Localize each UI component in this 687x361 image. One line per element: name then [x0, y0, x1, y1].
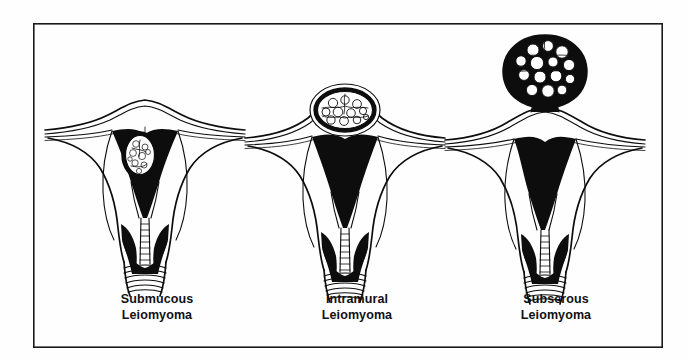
fibroid-intramural — [310, 84, 380, 136]
fibroid-subserous — [503, 35, 587, 108]
leiomyoma-illustration: Submucous Leiomyoma Intramural Leiomyoma… — [0, 0, 687, 361]
caption-subserous-line2: Leiomyoma — [521, 308, 592, 322]
caption-submucous-line1: Submucous — [121, 292, 193, 306]
caption-submucous-line2: Leiomyoma — [122, 308, 193, 322]
figure-root: Submucous Leiomyoma Intramural Leiomyoma… — [0, 0, 687, 361]
fibroid-submucous — [122, 132, 158, 178]
caption-intramural-line1: Intramural — [326, 292, 388, 306]
caption-intramural-line2: Leiomyoma — [322, 308, 393, 322]
caption-subserous-line1: Subserous — [523, 292, 589, 306]
